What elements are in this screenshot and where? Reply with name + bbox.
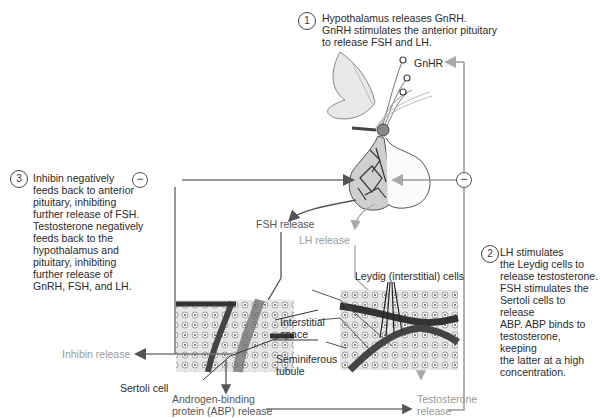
label-sertoli-cell: Sertoli cell <box>120 382 168 394</box>
label-interstitial-space: Interstitial space <box>280 316 325 340</box>
step-1-badge: 1 <box>298 12 316 30</box>
step-2-text: LH stimulates the Leydig cells to releas… <box>500 246 600 378</box>
step-3-text: Inhibin negatively feeds back to anterio… <box>33 172 158 292</box>
label-fsh-release: FSH release <box>256 218 314 230</box>
step-1-text: Hypothalamus releases GnRH. GnRH stimula… <box>322 12 502 48</box>
label-inhibin-release: Inhibin release <box>62 348 130 360</box>
label-leydig-cells: Leydig (interstitial) cells <box>355 270 464 282</box>
inhibit-feedback-icon-right: − <box>456 172 472 188</box>
label-testosterone-release: Testosterone release <box>417 393 477 417</box>
pituitary-illustration <box>328 52 432 210</box>
label-abp-release: Androgen-binding protein (ABP) release <box>172 393 272 417</box>
label-gnhr: GnHR <box>414 57 443 69</box>
seminiferous-tissue-image-right <box>340 282 458 370</box>
label-seminiferous-tubule: Seminiferous tubule <box>276 353 337 377</box>
inhibit-feedback-icon-left: − <box>132 172 148 188</box>
label-lh-release: LH release <box>299 234 350 246</box>
step-2-badge: 2 <box>481 245 499 263</box>
step-3-badge: 3 <box>10 170 28 188</box>
